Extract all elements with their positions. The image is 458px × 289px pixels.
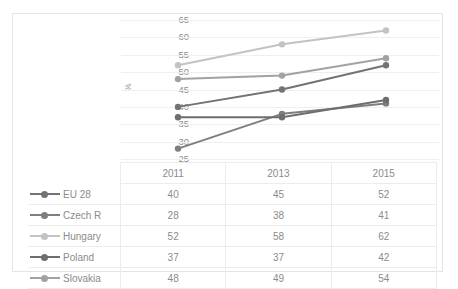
- table-cell: 37: [226, 247, 331, 268]
- table-header-row: 201120132015: [28, 163, 436, 184]
- chart-frame: % 656055504540353025 201120132015EU 2840…: [12, 13, 443, 272]
- table-cell: 52: [121, 226, 226, 247]
- legend-marker-icon: [30, 232, 60, 241]
- series-marker: [383, 62, 389, 68]
- table-column-header: 2015: [331, 163, 436, 184]
- plot-area: % 656055504540353025: [105, 20, 439, 159]
- table-cell: 54: [331, 268, 436, 289]
- table-row: Hungary525862: [28, 226, 436, 247]
- legend-item-poland: Poland: [28, 247, 121, 268]
- line-series-group: [105, 20, 439, 159]
- legend-item-hungary: Hungary: [28, 226, 121, 247]
- table-cell: 45: [226, 184, 331, 205]
- table-cell: 38: [226, 205, 331, 226]
- series-marker: [175, 114, 181, 120]
- table-cell: 49: [226, 268, 331, 289]
- table-row: EU 28404552: [28, 184, 436, 205]
- legend-label: Poland: [63, 252, 94, 263]
- table-row: Slovakia484954: [28, 268, 436, 289]
- table-cell: 58: [226, 226, 331, 247]
- table-cell: 48: [121, 268, 226, 289]
- table-cell: 42: [331, 247, 436, 268]
- legend-item-eu-28: EU 28: [28, 184, 121, 205]
- series-marker: [383, 97, 389, 103]
- legend-marker-icon: [30, 253, 60, 262]
- legend-item-czech-r: Czech R: [28, 205, 121, 226]
- legend-label: EU 28: [63, 189, 91, 200]
- legend-marker-icon: [30, 274, 60, 283]
- series-marker: [175, 104, 181, 110]
- data-table: 201120132015EU 28404552Czech R283841Hung…: [28, 162, 437, 289]
- table-corner-cell: [28, 163, 121, 184]
- series-marker: [175, 76, 181, 82]
- series-marker: [279, 41, 285, 47]
- legend-marker-icon: [30, 211, 60, 220]
- table-column-header: 2011: [121, 163, 226, 184]
- legend-label: Slovakia: [63, 273, 101, 284]
- legend-label: Czech R: [63, 210, 101, 221]
- table-cell: 28: [121, 205, 226, 226]
- series-marker: [279, 86, 285, 92]
- legend-label: Hungary: [63, 231, 101, 242]
- series-marker: [175, 145, 181, 151]
- series-line: [178, 103, 386, 148]
- table-cell: 41: [331, 205, 436, 226]
- table-cell: 40: [121, 184, 226, 205]
- legend-item-slovakia: Slovakia: [28, 268, 121, 289]
- series-marker: [279, 114, 285, 120]
- series-marker: [383, 55, 389, 61]
- table-cell: 37: [121, 247, 226, 268]
- series-marker: [175, 62, 181, 68]
- series-line: [178, 65, 386, 107]
- series-marker: [279, 72, 285, 78]
- gridline: [121, 159, 439, 160]
- table-row: Poland373742: [28, 247, 436, 268]
- series-marker: [383, 27, 389, 33]
- table-cell: 62: [331, 226, 436, 247]
- table-column-header: 2013: [226, 163, 331, 184]
- table-cell: 52: [331, 184, 436, 205]
- table-row: Czech R283841: [28, 205, 436, 226]
- legend-marker-icon: [30, 190, 60, 199]
- series-line: [178, 30, 386, 65]
